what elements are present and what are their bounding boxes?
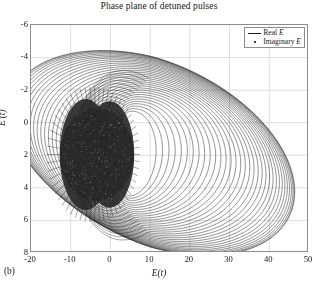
x-axis-title: E(t) <box>0 268 318 278</box>
legend-dot-icon <box>247 38 262 47</box>
x-tick-label: -20 <box>13 254 47 264</box>
legend: Real E Imaginary E <box>244 27 305 48</box>
x-tick-label: -10 <box>53 254 87 264</box>
y-tick-label: -2 <box>0 84 28 94</box>
y-tick-label: 4 <box>0 182 28 192</box>
y-tick-label: -6 <box>0 19 28 29</box>
y-tick-label: 6 <box>0 214 28 224</box>
orbit-canvas-wrap <box>31 25 307 251</box>
y-tick-label: 2 <box>0 149 28 159</box>
x-tick-label: 20 <box>172 254 206 264</box>
legend-label-imaginary: Imaginary E <box>262 38 301 47</box>
x-tick-label: 50 <box>291 254 318 264</box>
plot-area: Real E Imaginary E <box>30 24 308 252</box>
x-tick-label: 10 <box>132 254 166 264</box>
x-tick-label: 40 <box>251 254 285 264</box>
phase-plane-orbits <box>31 25 308 252</box>
y-tick-label: -4 <box>0 51 28 61</box>
chart-title: Phase plane of detuned pulses <box>0 1 318 11</box>
x-tick-label: 30 <box>212 254 246 264</box>
panel-label: (b) <box>4 266 15 276</box>
y-axis-title: E'(t) <box>0 109 7 126</box>
legend-line-icon <box>247 29 262 38</box>
x-tick-label: 0 <box>92 254 126 264</box>
legend-item-imaginary: Imaginary E <box>247 38 301 47</box>
figure-panel: Phase plane of detuned pulses Real E Ima… <box>0 0 318 285</box>
